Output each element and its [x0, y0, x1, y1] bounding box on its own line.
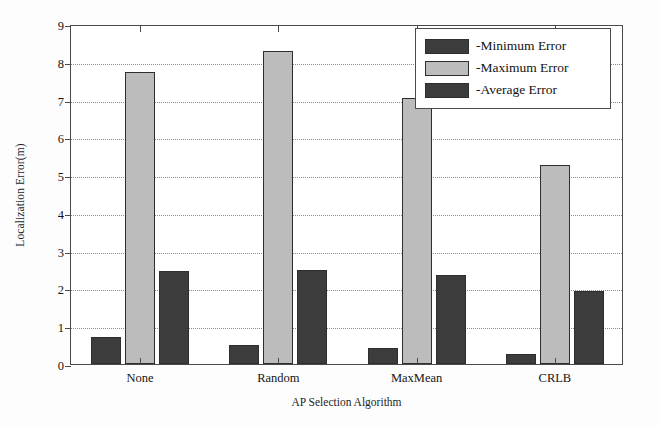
y-tick-mark — [65, 26, 71, 27]
y-tick-mark — [65, 64, 71, 65]
y-tick-label: 9 — [58, 19, 64, 34]
y-tick-mark — [65, 139, 71, 140]
y-tick-mark — [65, 102, 71, 103]
legend-swatch-avg — [425, 83, 469, 98]
legend-label: -Average Error — [476, 82, 557, 98]
x-axis-title: AP Selection Algorithm — [70, 396, 623, 408]
bar-maxmean-avg — [436, 275, 466, 364]
chart-legend: -Minimum Error-Maximum Error-Average Err… — [415, 28, 611, 109]
y-tick-label: 2 — [58, 283, 64, 298]
y-tick-label: 3 — [58, 245, 64, 260]
bar-maxmean-max — [402, 98, 432, 364]
legend-item: -Average Error — [425, 79, 602, 101]
bar-random-max — [263, 51, 293, 364]
legend-swatch-max — [425, 61, 469, 76]
y-tick-mark — [65, 366, 71, 367]
y-tick-label: 7 — [58, 94, 64, 109]
legend-label: -Maximum Error — [476, 60, 569, 76]
y-tick-label: 8 — [58, 56, 64, 71]
y-tick-label: 5 — [58, 170, 64, 185]
x-tick-mark-top — [278, 358, 279, 364]
y-tick-mark — [65, 177, 71, 178]
y-tick-mark — [65, 215, 71, 216]
bar-crlb-max — [540, 165, 570, 364]
x-tick-label-none: None — [127, 371, 154, 386]
x-tick-mark-top — [417, 358, 418, 364]
x-tick-mark-top — [555, 358, 556, 364]
x-tick-mark — [278, 26, 279, 32]
legend-item: -Minimum Error — [425, 35, 602, 57]
legend-label: -Minimum Error — [476, 38, 566, 54]
bar-chart-figure: Localization Error(m) 0123456789NoneRand… — [0, 0, 659, 426]
x-tick-label-random: Random — [257, 371, 299, 386]
y-tick-label: 6 — [58, 132, 64, 147]
bar-random-avg — [297, 270, 327, 364]
legend-item: -Maximum Error — [425, 57, 602, 79]
bar-crlb-avg — [574, 291, 604, 364]
y-tick-label: 1 — [58, 321, 64, 336]
x-tick-mark — [140, 26, 141, 32]
bar-none-avg — [159, 271, 189, 364]
legend-swatch-min — [425, 39, 469, 54]
y-tick-label: 4 — [58, 207, 64, 222]
y-tick-mark — [65, 328, 71, 329]
y-tick-mark — [65, 290, 71, 291]
bar-crlb-min — [506, 354, 536, 364]
bar-random-min — [229, 345, 259, 364]
bar-maxmean-min — [368, 348, 398, 364]
y-tick-mark — [65, 253, 71, 254]
bar-none-max — [125, 72, 155, 364]
y-tick-label: 0 — [58, 359, 64, 374]
x-tick-label-maxmean: MaxMean — [391, 371, 442, 386]
bar-none-min — [91, 337, 121, 364]
y-axis-title: Localization Error(m) — [14, 25, 36, 365]
x-tick-mark-top — [140, 358, 141, 364]
x-tick-label-crlb: CRLB — [539, 371, 572, 386]
